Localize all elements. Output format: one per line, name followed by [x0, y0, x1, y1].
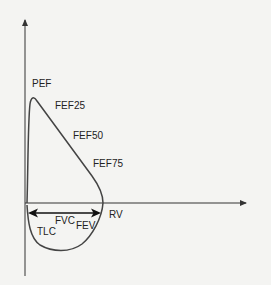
label-fef25: FEF25	[55, 101, 85, 111]
label-pef: PEF	[32, 79, 51, 89]
label-fvc: FVC	[55, 216, 75, 226]
label-fef75: FEF75	[93, 159, 123, 169]
flow-volume-diagram	[0, 0, 271, 285]
label-tlc: TLC	[37, 227, 56, 237]
label-fev: FEV	[76, 221, 95, 231]
label-fef50: FEF50	[73, 131, 103, 141]
label-rv: RV	[109, 210, 123, 220]
expiratory-curve	[27, 98, 103, 203]
